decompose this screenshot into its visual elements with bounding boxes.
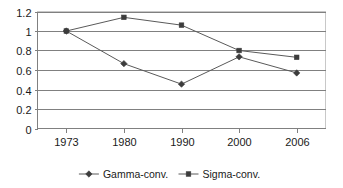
y-axis-tick-label: 0.8 <box>16 45 31 57</box>
chart-background <box>0 0 343 188</box>
chart-canvas: 00.20.40.60.811.2 19731980199020002006 G… <box>0 0 343 188</box>
line-chart: 00.20.40.60.811.2 19731980199020002006 G… <box>0 0 343 188</box>
y-axis-tick-label: 1.2 <box>16 7 31 19</box>
x-axis-tick-label: 2006 <box>285 136 309 148</box>
data-point-marker <box>237 48 242 53</box>
data-point-marker <box>64 29 69 34</box>
y-axis-tick-label: 1 <box>25 26 31 38</box>
data-point-marker <box>122 15 127 20</box>
legend-marker-square <box>186 172 191 177</box>
x-axis-tick-label: 2000 <box>227 136 251 148</box>
x-axis-tick-label: 1980 <box>112 136 136 148</box>
x-axis-tick-label: 1973 <box>54 136 78 148</box>
y-axis-tick-label: 0.2 <box>16 104 31 116</box>
x-axis-tick-label: 1990 <box>170 136 194 148</box>
y-axis-tick-label: 0 <box>25 124 31 136</box>
y-axis-tick-label: 0.6 <box>16 65 31 77</box>
legend-label: Sigma-conv. <box>203 168 261 180</box>
data-point-marker <box>294 55 299 60</box>
legend-label: Gamma-conv. <box>103 168 168 180</box>
y-axis-tick-label: 0.4 <box>16 85 31 97</box>
data-point-marker <box>179 23 184 28</box>
